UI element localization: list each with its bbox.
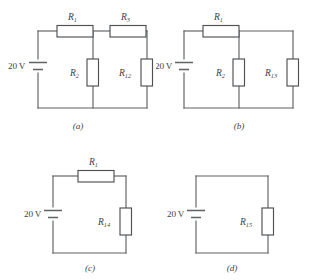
resistor-R3-body-a — [110, 26, 146, 38]
resistor-label-R12-a: R12 — [118, 68, 132, 79]
resistor-R13-body-b — [287, 59, 299, 86]
panel-caption-b: (b) — [234, 121, 245, 131]
resistor-R2-body-b — [233, 59, 245, 86]
source-label-a: 20V — [8, 61, 26, 71]
panel-caption-c: (c) — [85, 263, 95, 273]
resistor-R2-body-a — [87, 59, 99, 86]
resistor-label-R2-b: R2 — [215, 68, 226, 79]
resistor-R1-body-b — [203, 26, 239, 38]
resistor-R12-body-a — [141, 59, 153, 86]
resistor-label-R15-d: R15 — [239, 217, 252, 228]
circuit-panel-b: 20V R1 R2 R13 (b) — [156, 0, 312, 140]
circuit-panel-a: 20V R1 R3 R2 R12 (a) — [0, 0, 156, 140]
source-label-d: 20V — [167, 209, 185, 219]
resistor-label-R3-a: R3 — [120, 12, 130, 23]
panel-caption-a: (a) — [73, 121, 84, 131]
resistor-R15-body-d — [262, 208, 274, 235]
resistor-label-R2-a: R2 — [69, 68, 80, 79]
source-label-b: 20V — [156, 61, 173, 71]
resistor-R1-body-c — [78, 171, 114, 183]
resistor-label-R13-b: R13 — [264, 68, 277, 79]
resistor-label-R1-a: R1 — [67, 12, 77, 23]
circuit-panel-d: 20V R15 (d) — [156, 140, 312, 280]
circuit-figure: 20V R1 R3 R2 R12 (a) 20V R1 — [0, 0, 312, 280]
panel-caption-d: (d) — [227, 263, 238, 273]
circuit-panel-c: 20V R1 R14 (c) — [0, 140, 156, 280]
source-label-c: 20V — [24, 209, 42, 219]
resistor-R14-body-c — [120, 208, 132, 235]
resistor-label-R14-c: R14 — [97, 217, 110, 228]
resistor-R1-body-a — [57, 26, 93, 38]
resistor-label-R1-c: R1 — [88, 157, 98, 168]
resistor-label-R1-b: R1 — [213, 12, 223, 23]
